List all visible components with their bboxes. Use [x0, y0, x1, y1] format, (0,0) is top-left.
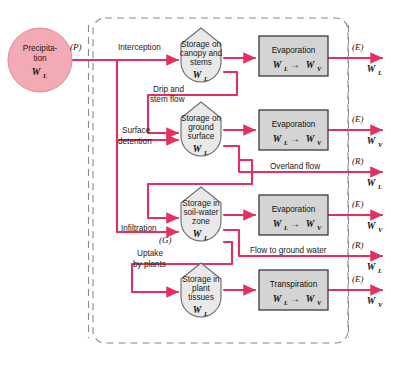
storage-plant-line1: Storage in [182, 275, 220, 284]
process-evap1-to-sub: V [317, 65, 322, 72]
process-transpiration-label: Transpiration [270, 280, 318, 289]
hydrologic-cycle-diagram: Precipita- tion W L (P) Storage on canop… [0, 0, 408, 366]
storage-soil-line3: zone [192, 217, 210, 226]
process-evap3-arrow-icon: → [290, 218, 300, 229]
process-evap2-to: W [306, 133, 316, 144]
process-evap1-from: W [273, 59, 283, 70]
label-uptake-line1: Uptake [137, 249, 163, 258]
output-3-flux-tag: (R) [352, 156, 364, 166]
storage-plant-line2: plant [192, 284, 210, 293]
storage-ground-line1: Storage on [181, 114, 222, 123]
storage-canopy-symbol-sub: L [203, 75, 208, 82]
output-1-symbol: W [367, 63, 377, 74]
output-3-symbol-sub: L [377, 183, 382, 190]
storage-canopy-line1: Storage on [181, 40, 222, 49]
storage-plant-symbol: W [193, 304, 203, 315]
storage-ground-symbol: W [193, 143, 203, 154]
label-flow-to-ground-water: Flow to ground water [250, 246, 327, 255]
output-1-symbol-sub: L [377, 69, 382, 76]
storage-soil-symbol: W [193, 228, 203, 239]
process-transpiration-arrow-icon: → [290, 293, 300, 304]
label-surface-detention-line2: detention [118, 137, 152, 146]
process-evap3-to: W [306, 218, 316, 229]
storage-canopy-line2: canopy and [180, 49, 223, 58]
output-5-symbol-sub: L [377, 267, 382, 274]
process-evaporation-ground: Evaporation W L → W V [259, 110, 328, 150]
label-uptake-line2: by plants [133, 260, 166, 269]
output-4-symbol-sub: V [378, 226, 383, 233]
label-overland-flow: Overland flow [270, 162, 320, 171]
storage-plant-line3: tissues [188, 293, 213, 302]
label-surface-detention-line1: Surface [122, 126, 151, 135]
process-evaporation-canopy: Evaporation W L → W V [259, 36, 328, 76]
output-2-flux-tag: (E) [352, 114, 364, 124]
precipitation-symbol: W [32, 66, 42, 77]
process-transpiration-from-sub: L [283, 299, 288, 306]
output-6-flux-tag: (E) [352, 274, 364, 284]
process-evap1-to: W [306, 59, 316, 70]
process-evap2-from-sub: L [283, 139, 288, 146]
output-4-symbol: W [367, 220, 377, 231]
process-evap2-from: W [273, 133, 283, 144]
output-4-flux-tag: (E) [352, 199, 364, 209]
process-evap1-label: Evaporation [272, 46, 316, 55]
process-evap3-from: W [273, 218, 283, 229]
output-6-symbol: W [367, 295, 377, 306]
process-transpiration-from: W [273, 293, 283, 304]
label-groundwater-tag: (G) [159, 235, 172, 245]
process-transpiration-plant: Transpiration W L → W V [259, 270, 328, 310]
process-evap3-to-sub: V [317, 224, 322, 231]
label-drip-line2: stem flow [150, 95, 185, 104]
precipitation-symbol-sub: L [42, 72, 47, 79]
precipitation-line2: tion [33, 54, 47, 63]
label-interception: Interception [118, 43, 161, 52]
label-drip-line1: Drip and [153, 85, 184, 94]
storage-plant-symbol-sub: L [203, 310, 208, 317]
process-evap2-label: Evaporation [272, 120, 316, 129]
storage-soil-line2: soil-water [183, 208, 218, 217]
output-1-flux-tag: (E) [352, 42, 364, 52]
process-transpiration-to-sub: V [317, 299, 322, 306]
storage-canopy-line3: stems [190, 58, 212, 67]
label-infiltration: Infiltration [121, 224, 157, 233]
output-5-flux-tag: (R) [352, 240, 364, 250]
precipitation-flux-tag: (P) [70, 42, 82, 52]
storage-ground-symbol-sub: L [203, 149, 208, 156]
process-evap3-label: Evaporation [272, 205, 316, 214]
process-evap3-from-sub: L [283, 224, 288, 231]
storage-soil-symbol-sub: L [203, 234, 208, 241]
storage-ground-line3: surface [188, 132, 215, 141]
process-transpiration-to: W [306, 293, 316, 304]
output-2-symbol: W [367, 135, 377, 146]
output-3-symbol: W [367, 177, 377, 188]
process-evap2-arrow-icon: → [290, 133, 300, 144]
precipitation-line1: Precipita- [23, 44, 58, 53]
storage-ground-line2: ground [188, 123, 214, 132]
diagram-canvas: Precipita- tion W L (P) Storage on canop… [0, 0, 408, 366]
process-evap1-from-sub: L [283, 65, 288, 72]
process-evap1-arrow-icon: → [290, 59, 300, 70]
process-evap2-to-sub: V [317, 139, 322, 146]
storage-canopy-symbol: W [193, 69, 203, 80]
storage-soil-line1: Storage in [182, 199, 220, 208]
process-evaporation-soil: Evaporation W L → W V [259, 195, 328, 235]
output-5-symbol: W [367, 261, 377, 272]
output-6-symbol-sub: V [378, 301, 383, 308]
output-2-symbol-sub: V [378, 141, 383, 148]
